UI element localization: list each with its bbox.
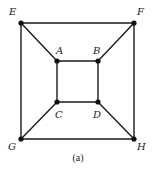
graph-diagram: EFABCDGH (a) — [0, 0, 157, 172]
vertex-label-d: D — [92, 109, 101, 120]
vertex-a — [54, 58, 59, 63]
vertex-d — [95, 99, 100, 104]
vertex-label-b: B — [92, 45, 100, 56]
vertex-label-g: G — [8, 141, 16, 152]
vertex-label-e: E — [8, 6, 17, 17]
vertex-label-f: F — [136, 6, 145, 17]
edge-g-c — [21, 102, 57, 139]
vertex-e — [18, 20, 23, 25]
vertex-g — [18, 136, 23, 141]
vertex-label-a: A — [55, 45, 63, 56]
edges-group — [21, 23, 134, 139]
vertex-b — [95, 58, 100, 63]
vertex-label-h: H — [136, 141, 146, 152]
vertex-h — [131, 136, 136, 141]
edge-e-a — [21, 23, 57, 61]
edge-f-b — [98, 23, 134, 61]
vertex-label-c: C — [55, 109, 63, 120]
vertex-f — [131, 20, 136, 25]
edge-h-d — [98, 102, 134, 139]
vertex-c — [54, 99, 59, 104]
figure-caption: (a) — [72, 152, 83, 164]
